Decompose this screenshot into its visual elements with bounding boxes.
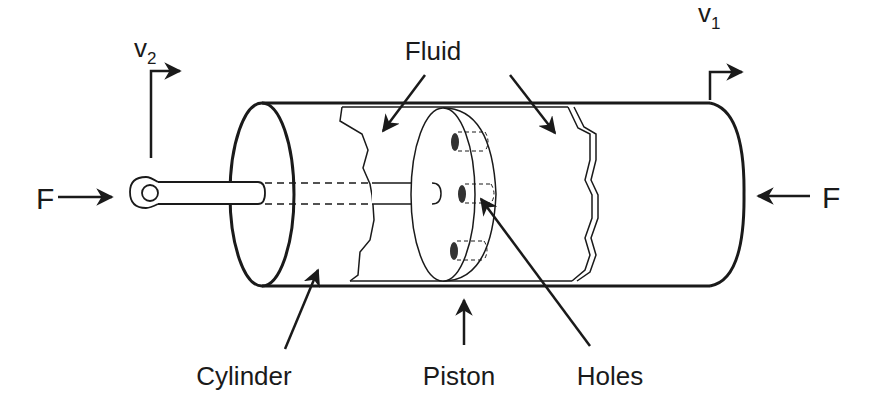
velocity-v2-arrow — [151, 71, 180, 158]
piston-rod — [130, 177, 441, 208]
velocity-v1-arrow — [710, 72, 742, 100]
label-force-right: F — [822, 181, 840, 214]
label-cylinder: Cylinder — [196, 361, 292, 391]
cylinder-body — [230, 103, 744, 286]
hole-middle — [458, 184, 494, 203]
rod-eye-icon — [142, 185, 158, 201]
label-force-left: F — [36, 182, 54, 215]
label-piston: Piston — [423, 361, 495, 391]
holes-leader — [481, 199, 590, 346]
label-v2: v2 — [134, 33, 156, 68]
label-v1: v1 — [698, 0, 720, 33]
label-holes: Holes — [577, 361, 643, 391]
cylinder-leader — [285, 270, 318, 349]
damper-diagram: v2 v1 F F Fluid Cylinder Piston Holes — [0, 0, 870, 416]
label-fluid: Fluid — [405, 36, 461, 66]
